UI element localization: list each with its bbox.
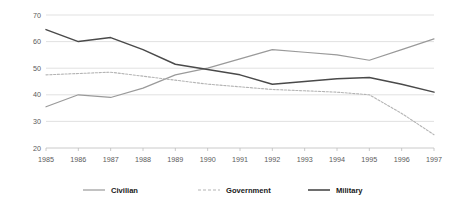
- series-lines: [46, 30, 434, 135]
- y-axis: 203040506070: [33, 11, 41, 153]
- series-line-government: [46, 72, 434, 135]
- y-axis-tick-label: 50: [33, 64, 41, 73]
- x-axis-tick-label: 1990: [200, 155, 216, 164]
- x-axis-tick-label: 1993: [297, 155, 313, 164]
- y-axis-tick-label: 70: [33, 11, 41, 20]
- x-axis-tick-label: 1987: [103, 155, 119, 164]
- x-axis-tick-label: 1989: [167, 155, 183, 164]
- legend-label-military: Military: [336, 186, 363, 195]
- x-axis-tick-label: 1986: [70, 155, 86, 164]
- series-line-military: [46, 30, 434, 93]
- legend-label-civilian: Civilian: [111, 186, 138, 195]
- y-axis-tick-label: 30: [33, 117, 41, 126]
- y-axis-tick-label: 40: [33, 90, 41, 99]
- x-axis-tick-label: 1997: [426, 155, 442, 164]
- x-axis-tick-label: 1988: [135, 155, 151, 164]
- x-axis-tick-label: 1995: [361, 155, 377, 164]
- x-axis: 1985198619871988198919901991199219931994…: [38, 148, 442, 164]
- chart-legend: CivilianGovernmentMilitary: [83, 186, 363, 195]
- y-axis-tick-label: 20: [33, 144, 41, 153]
- grid-lines: [46, 15, 434, 148]
- y-axis-tick-label: 60: [33, 37, 41, 46]
- legend-label-government: Government: [226, 186, 271, 195]
- x-axis-tick-label: 1996: [394, 155, 410, 164]
- x-axis-tick-label: 1994: [329, 155, 345, 164]
- x-axis-tick-label: 1985: [38, 155, 54, 164]
- x-axis-tick-label: 1991: [232, 155, 248, 164]
- line-chart: 203040506070 198519861987198819891990199…: [0, 0, 454, 212]
- x-axis-tick-label: 1992: [264, 155, 280, 164]
